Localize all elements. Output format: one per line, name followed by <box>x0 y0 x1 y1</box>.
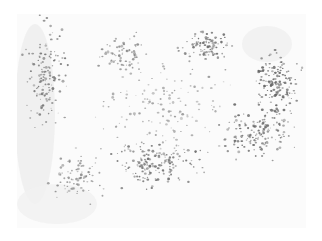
nuclei-dot-field <box>17 14 306 228</box>
micrograph-image <box>17 14 306 228</box>
